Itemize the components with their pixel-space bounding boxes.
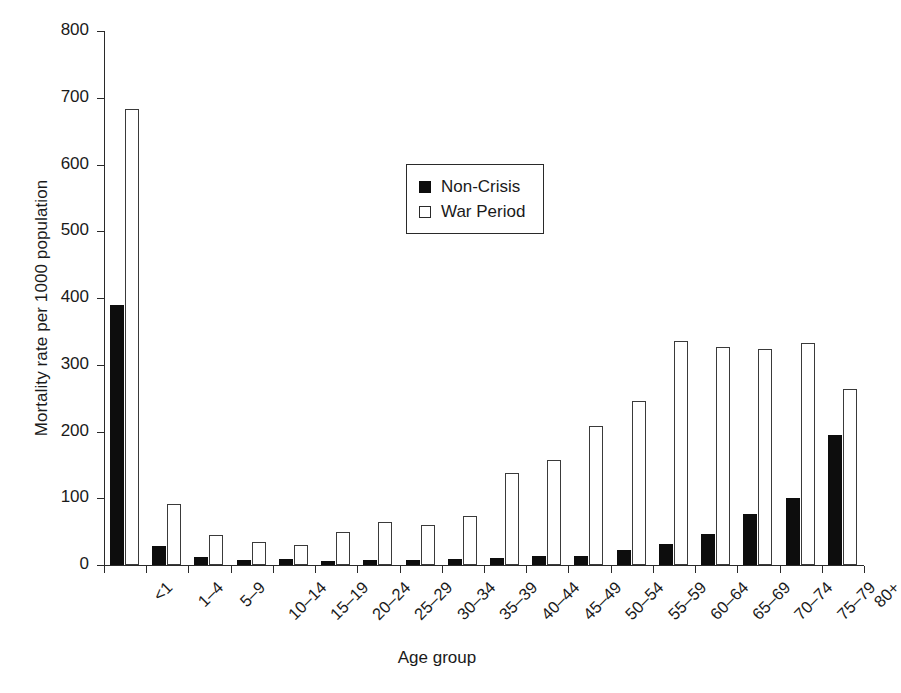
x-axis-tick bbox=[864, 566, 865, 573]
legend-label-war-period: War Period bbox=[441, 202, 525, 222]
y-axis-tick-label: 0 bbox=[80, 554, 89, 574]
x-axis-tick bbox=[104, 566, 105, 573]
bar-group bbox=[194, 31, 224, 565]
bar-non-crisis bbox=[659, 544, 673, 565]
x-axis-tick bbox=[188, 566, 189, 573]
x-axis-tick-label: 40–44 bbox=[537, 578, 583, 624]
x-axis-tick bbox=[484, 566, 485, 573]
bar-group bbox=[701, 31, 731, 565]
x-axis-tick bbox=[442, 566, 443, 573]
bar-group bbox=[237, 31, 267, 565]
x-axis-tick-label: 45–49 bbox=[579, 578, 625, 624]
x-axis-tick bbox=[526, 566, 527, 573]
bar-war-period bbox=[674, 341, 688, 565]
chart-legend: Non-Crisis War Period bbox=[406, 164, 544, 234]
x-axis-tick bbox=[653, 566, 654, 573]
x-axis-tick-label: 35–39 bbox=[495, 578, 541, 624]
y-axis-tick: 200 bbox=[97, 432, 104, 433]
bar-war-period bbox=[209, 535, 223, 565]
bar-war-period bbox=[547, 460, 561, 565]
bar-non-crisis bbox=[701, 534, 715, 565]
y-axis-tick-label: 600 bbox=[61, 154, 89, 174]
bar-non-crisis bbox=[406, 560, 420, 565]
bar-non-crisis bbox=[110, 305, 124, 565]
x-axis-tick-label: 25–29 bbox=[410, 578, 456, 624]
bar-non-crisis bbox=[532, 556, 546, 565]
y-axis-line bbox=[104, 31, 105, 566]
x-axis-tick-label: 1–4 bbox=[194, 578, 227, 611]
y-axis-tick-label: 100 bbox=[61, 487, 89, 507]
bar-war-period bbox=[125, 109, 139, 565]
bar-group bbox=[743, 31, 773, 565]
x-axis-tick-label: 70–74 bbox=[790, 578, 836, 624]
y-axis-tick-label: 500 bbox=[61, 220, 89, 240]
x-axis-tick bbox=[357, 566, 358, 573]
bar-non-crisis bbox=[194, 557, 208, 565]
bar-non-crisis bbox=[617, 550, 631, 565]
legend-label-non-crisis: Non-Crisis bbox=[441, 177, 520, 197]
bar-group bbox=[617, 31, 647, 565]
legend-item-war-period: War Period bbox=[419, 199, 525, 224]
bar-group bbox=[490, 31, 520, 565]
bar-group bbox=[574, 31, 604, 565]
bar-war-period bbox=[758, 349, 772, 565]
y-axis-title: Mortality rate per 1000 population bbox=[32, 98, 52, 518]
bar-group bbox=[659, 31, 689, 565]
bar-war-period bbox=[589, 426, 603, 566]
x-axis-tick-label: 20–24 bbox=[368, 578, 414, 624]
bar-non-crisis bbox=[828, 435, 842, 565]
bar-war-period bbox=[505, 473, 519, 565]
bar-war-period bbox=[632, 401, 646, 565]
x-axis-tick-label: <1 bbox=[150, 578, 177, 605]
y-axis-tick: 500 bbox=[97, 231, 104, 232]
y-axis-tick: 300 bbox=[97, 365, 104, 366]
y-axis-tick-label: 200 bbox=[61, 421, 89, 441]
x-axis-tick-label: 5–9 bbox=[236, 578, 269, 611]
bar-war-period bbox=[378, 522, 392, 565]
x-axis-tick bbox=[737, 566, 738, 573]
x-axis-tick-label: 65–69 bbox=[748, 578, 794, 624]
bar-war-period bbox=[421, 525, 435, 565]
y-axis-tick: 600 bbox=[97, 165, 104, 166]
legend-swatch-open-square-icon bbox=[419, 206, 431, 218]
bar-group bbox=[363, 31, 393, 565]
x-axis-tick-label: 50–54 bbox=[621, 578, 667, 624]
bar-war-period bbox=[716, 347, 730, 565]
bar-group bbox=[321, 31, 351, 565]
legend-item-non-crisis: Non-Crisis bbox=[419, 174, 525, 199]
bar-non-crisis bbox=[574, 556, 588, 565]
x-axis-tick bbox=[780, 566, 781, 573]
bar-war-period bbox=[294, 545, 308, 565]
bar-war-period bbox=[252, 542, 266, 565]
x-axis-tick-label: 30–34 bbox=[453, 578, 499, 624]
y-axis-tick-label: 300 bbox=[61, 354, 89, 374]
x-axis-tick bbox=[315, 566, 316, 573]
bar-non-crisis bbox=[448, 559, 462, 565]
x-axis-tick bbox=[695, 566, 696, 573]
bar-non-crisis bbox=[237, 560, 251, 565]
x-axis-tick bbox=[231, 566, 232, 573]
x-axis-tick bbox=[146, 566, 147, 573]
bar-group bbox=[828, 31, 858, 565]
x-axis-tick bbox=[611, 566, 612, 573]
bar-war-period bbox=[801, 343, 815, 565]
legend-swatch-filled-square-icon bbox=[419, 181, 431, 193]
x-axis-tick-label: 80+ bbox=[870, 578, 901, 611]
y-axis-tick: 800 bbox=[97, 31, 104, 32]
y-axis-tick-label: 800 bbox=[61, 20, 89, 40]
x-axis-tick-label: 15–19 bbox=[326, 578, 372, 624]
x-axis-tick-label: 60–64 bbox=[706, 578, 752, 624]
y-axis-tick: 400 bbox=[97, 298, 104, 299]
x-axis-tick-label: 10–14 bbox=[284, 578, 330, 624]
bar-group bbox=[406, 31, 436, 565]
x-axis-title: Age group bbox=[0, 648, 874, 668]
x-axis-tick-label: 55–59 bbox=[664, 578, 710, 624]
bar-group bbox=[448, 31, 478, 565]
bar-group bbox=[532, 31, 562, 565]
bar-war-period bbox=[843, 389, 857, 565]
x-axis-tick bbox=[273, 566, 274, 573]
y-axis-tick-label: 400 bbox=[61, 287, 89, 307]
bar-non-crisis bbox=[279, 559, 293, 565]
x-axis-tick bbox=[400, 566, 401, 573]
bar-non-crisis bbox=[743, 514, 757, 565]
